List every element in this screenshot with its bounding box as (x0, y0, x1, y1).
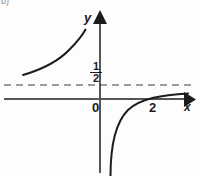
fraction-numerator: 1 (90, 62, 102, 71)
x-tick-label-2: 2 (149, 101, 156, 114)
graph-figure: b) y x 0 2 1 2 (0, 0, 199, 176)
curve-upper-left-branch (23, 30, 86, 76)
graph-canvas (0, 0, 199, 176)
origin-label: 0 (92, 101, 99, 114)
x-axis-label: x (184, 101, 191, 113)
fraction-denominator: 2 (90, 74, 102, 83)
y-axis-label: y (84, 11, 91, 24)
y-axis-arrowhead (93, 10, 107, 24)
figure-corner-tag: b) (1, 0, 9, 6)
asymptote-value-label: 1 2 (90, 62, 102, 83)
